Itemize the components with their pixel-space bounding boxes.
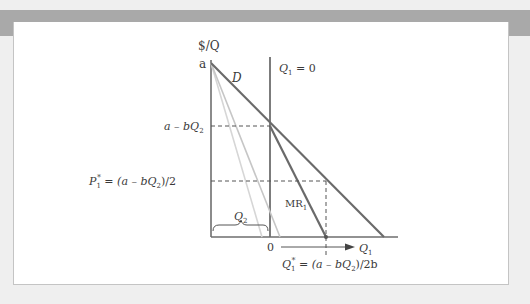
origin-label: 0 — [267, 241, 274, 254]
optimal-qty-label: Q1* = (a – bQ2)/2b — [282, 256, 378, 273]
cournot-residual-demand-diagram: $/Q a D Q1 = 0 a – bQ2 P1* = (a – bQ2)/2… — [0, 0, 530, 304]
optimal-price-label: P1* = (a – bQ2)/2 — [88, 173, 176, 190]
residual-price-label: a – bQ2 — [164, 120, 204, 135]
demand-label: D — [231, 71, 242, 85]
q1-zero-label: Q1 = 0 — [279, 62, 316, 77]
x-axis-label: Q1 — [359, 242, 373, 257]
q2-brace-label: Q2 — [234, 210, 248, 225]
arrow-right-icon — [345, 244, 355, 251]
intercept-label: a — [199, 57, 206, 71]
y-axis-label: $/Q — [198, 39, 220, 53]
optimal-point — [324, 235, 328, 239]
mr1-label: MR1 — [285, 198, 307, 212]
